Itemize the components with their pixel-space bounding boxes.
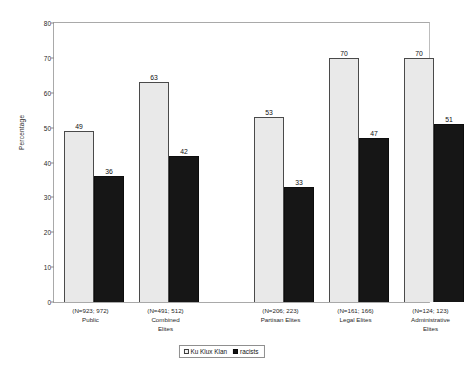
legend-item-ku-klux-klan[interactable]: Ku Klux Klan [183, 348, 227, 355]
bar-value-combined-elites-ku-klux-klan: 63 [150, 74, 158, 81]
x-label-administrative-elites-n: (N=124; 123) [388, 306, 468, 315]
bar-public-ku-klux-klan[interactable]: 49 [64, 131, 94, 302]
y-tick-40: 40 [44, 159, 51, 166]
bar-value-administrative-elites-racists: 51 [445, 116, 453, 123]
bar-group-public: 49 36 [64, 23, 136, 302]
x-label-partisan-elites-name: Partisan Elites [238, 315, 323, 324]
bar-group-combined-elites: 63 42 [139, 23, 211, 302]
y-tick-50: 50 [44, 124, 51, 131]
y-tick-mark-10 [51, 267, 54, 268]
bar-legal-elites-ku-klux-klan[interactable]: 70 [329, 58, 359, 302]
bar-administrative-elites-ku-klux-klan[interactable]: 70 [404, 58, 434, 302]
bar-group-administrative-elites: 70 51 [404, 23, 468, 302]
x-label-legal-elites-name: Legal Elites [313, 315, 398, 324]
y-tick-mark-20 [51, 232, 54, 233]
x-label-administrative-elites-name2: Elites [388, 324, 468, 333]
x-label-legal-elites: (N=161; 166) Legal Elites [313, 306, 398, 324]
plot-inner: 0 10 20 30 40 50 60 70 80 49 [54, 23, 429, 302]
bar-partisan-elites-racists[interactable]: 33 [284, 187, 314, 302]
x-label-public-name: Public [48, 315, 133, 324]
y-tick-30: 30 [44, 194, 51, 201]
bar-value-administrative-elites-ku-klux-klan: 70 [415, 50, 423, 57]
bar-public-racists[interactable]: 36 [94, 176, 124, 302]
bar-combined-elites-ku-klux-klan[interactable]: 63 [139, 82, 169, 302]
bar-combined-elites-racists[interactable]: 42 [169, 156, 199, 302]
y-tick-mark-50 [51, 127, 54, 128]
bar-value-legal-elites-ku-klux-klan: 70 [340, 50, 348, 57]
bar-value-combined-elites-racists: 42 [180, 148, 188, 155]
x-label-combined-elites-name2: Elites [123, 324, 208, 333]
legend-label-racists: racists [240, 348, 258, 355]
x-label-combined-elites: (N=491; 512) Combined Elites [123, 306, 208, 333]
y-tick-mark-70 [51, 57, 54, 58]
legend-item-racists[interactable]: racists [233, 348, 258, 355]
y-tick-20: 20 [44, 229, 51, 236]
x-label-public: (N=923; 972) Public [48, 306, 133, 324]
legend-swatch-ku-klux-klan-icon [183, 349, 188, 354]
y-tick-70: 70 [44, 54, 51, 61]
y-tick-mark-40 [51, 162, 54, 163]
bar-group-partisan-elites: 53 33 [254, 23, 326, 302]
x-label-administrative-elites-name1: Administrative [388, 315, 468, 324]
bar-value-partisan-elites-ku-klux-klan: 53 [265, 109, 273, 116]
plot-area: 0 10 20 30 40 50 60 70 80 49 [53, 22, 430, 303]
y-tick-10: 10 [44, 264, 51, 271]
legend-swatch-racists-icon [233, 349, 238, 354]
bar-administrative-elites-racists[interactable]: 51 [434, 124, 464, 302]
y-tick-mark-60 [51, 92, 54, 93]
bar-value-public-ku-klux-klan: 49 [75, 123, 83, 130]
y-tick-80: 80 [44, 20, 51, 27]
bar-value-partisan-elites-racists: 33 [295, 179, 303, 186]
y-tick-60: 60 [44, 89, 51, 96]
x-label-public-n: (N=923; 972) [48, 306, 133, 315]
bar-value-public-racists: 36 [105, 168, 113, 175]
x-label-administrative-elites: (N=124; 123) Administrative Elites [388, 306, 468, 333]
bar-group-legal-elites: 70 47 [329, 23, 401, 302]
y-tick-mark-0 [51, 302, 54, 303]
legend-label-ku-klux-klan: Ku Klux Klan [190, 348, 227, 355]
y-tick-mark-80 [51, 23, 54, 24]
x-label-legal-elites-n: (N=161; 166) [313, 306, 398, 315]
y-tick-mark-30 [51, 197, 54, 198]
bar-partisan-elites-ku-klux-klan[interactable]: 53 [254, 117, 284, 302]
x-label-combined-elites-name1: Combined [123, 315, 208, 324]
x-label-combined-elites-n: (N=491; 512) [123, 306, 208, 315]
bar-value-legal-elites-racists: 47 [370, 130, 378, 137]
x-label-partisan-elites: (N=206; 223) Partisan Elites [238, 306, 323, 324]
bar-legal-elites-racists[interactable]: 47 [359, 138, 389, 302]
chart-legend: Ku Klux Klan racists [178, 345, 264, 358]
x-label-partisan-elites-n: (N=206; 223) [238, 306, 323, 315]
y-axis-title: Percentage [18, 70, 25, 150]
